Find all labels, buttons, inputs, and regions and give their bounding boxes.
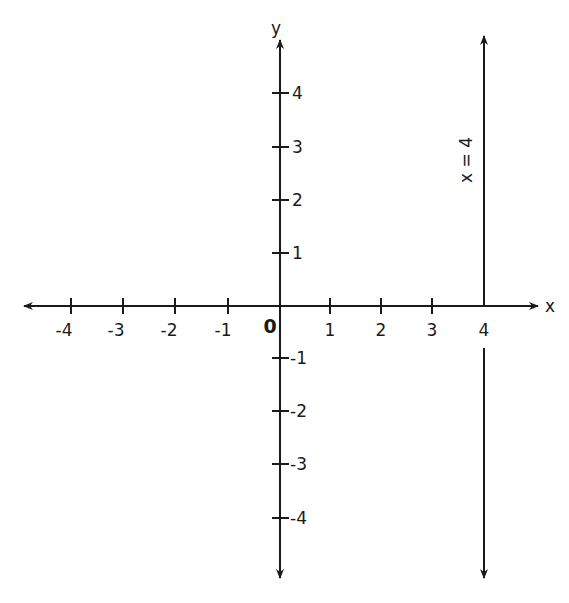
x-tick-label: -3 — [108, 320, 125, 340]
coordinate-plane: -4 -3 -2 -1 1 2 3 4 4 3 2 1 -1 -2 -3 -4 … — [0, 0, 569, 603]
y-tick-label: -3 — [290, 454, 307, 474]
y-tick-label: 1 — [292, 243, 303, 263]
x-tick-label: -4 — [56, 320, 73, 340]
y-tick-label: -2 — [290, 401, 307, 421]
y-tick-label: -4 — [290, 508, 307, 528]
x-axis-label: x — [545, 296, 555, 316]
y-tick-label: 3 — [292, 137, 303, 157]
x-tick-label: 2 — [376, 320, 387, 340]
y-tick-label: 2 — [292, 190, 303, 210]
x-tick-label: 4 — [479, 320, 490, 340]
origin-label: 0 — [263, 315, 276, 337]
y-tick-label: -1 — [290, 348, 307, 368]
equation-label: x = 4 — [456, 137, 476, 183]
x-tick-label: 1 — [325, 320, 336, 340]
graph-canvas: -4 -3 -2 -1 1 2 3 4 4 3 2 1 -1 -2 -3 -4 … — [0, 0, 569, 603]
y-tick-label: 4 — [292, 83, 303, 103]
x-tick-label: 3 — [427, 320, 438, 340]
x-tick-label: -2 — [161, 320, 178, 340]
x-tick-label: -1 — [215, 320, 232, 340]
y-axis-label: y — [271, 18, 281, 38]
